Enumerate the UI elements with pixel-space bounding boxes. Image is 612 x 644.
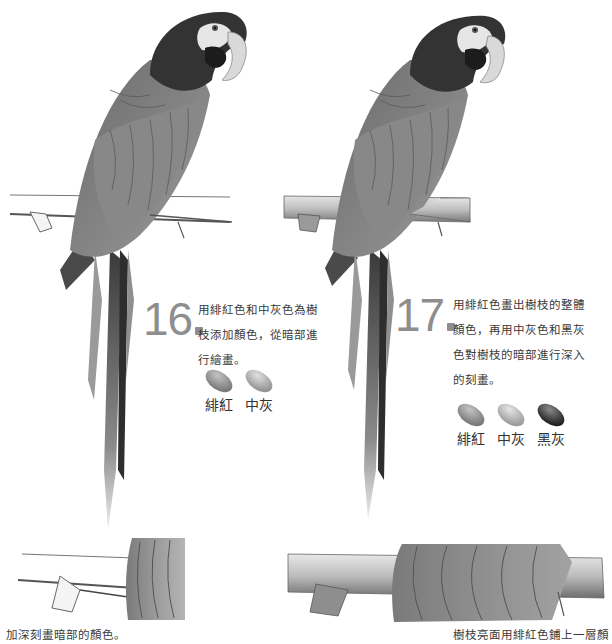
step-16-instructions: 用緋紅色和中灰色為樹 枝添加顏色，從暗部進 行繪畫。 xyxy=(198,298,318,373)
color-blob-icon xyxy=(534,399,569,431)
swatch-label: 中灰 xyxy=(497,428,526,448)
step-number-17-value: 17 xyxy=(395,289,444,341)
step-number-17: 17 xyxy=(395,292,455,338)
step-number-16-value: 16 xyxy=(143,293,192,345)
swatch-label: 緋紅 xyxy=(205,394,234,414)
step-16-color-swatches: 緋紅 中灰 xyxy=(202,372,276,414)
swatch-scarlet: 緋紅 xyxy=(202,372,236,414)
parrot-illustration-step-16 xyxy=(0,0,280,540)
step-16-line: 用緋紅色和中灰色為樹 xyxy=(198,298,318,323)
swatch-label: 緋紅 xyxy=(457,428,486,448)
step-number-16: 16 xyxy=(143,296,203,342)
step-17-line: 用緋紅色畫出樹枝的整體 xyxy=(453,293,585,318)
branch-detail-step-17 xyxy=(282,532,612,624)
step-16-line: 枝添加顏色，從暗部進 xyxy=(198,323,318,348)
step-17-instructions: 用緋紅色畫出樹枝的整體 顏色，再用中灰色和黑灰 色對樹枝的暗部進行深入 的刻畫。 xyxy=(453,293,585,393)
step-17-line: 色對樹枝的暗部進行深入 xyxy=(453,343,585,368)
swatch-medium-gray: 中灰 xyxy=(242,372,276,414)
caption-left-bottom: 加深刻畫暗部的顏色。 xyxy=(6,626,126,642)
parrot-illustration-step-17 xyxy=(280,0,520,530)
caption-right-bottom: 樹枝亮面用緋紅色鋪上一層顏 xyxy=(453,626,609,642)
step-17-line: 的刻畫。 xyxy=(453,368,585,393)
step-17-line: 顏色，再用中灰色和黑灰 xyxy=(453,318,585,343)
swatch-label: 中灰 xyxy=(245,394,274,414)
swatch-black-gray: 黑灰 xyxy=(534,406,568,448)
swatch-scarlet: 緋紅 xyxy=(454,406,488,448)
swatch-medium-gray: 中灰 xyxy=(494,406,528,448)
swatch-label: 黑灰 xyxy=(537,428,566,448)
step-17-color-swatches: 緋紅 中灰 黑灰 xyxy=(454,406,568,448)
branch-detail-step-16 xyxy=(0,530,190,625)
